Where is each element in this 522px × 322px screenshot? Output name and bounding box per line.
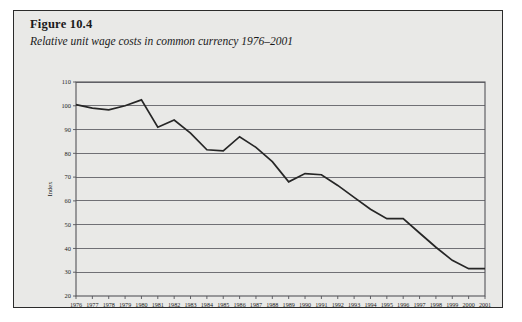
x-axis-ticks: 1976197719781979198019811982198319841985… [70,296,491,308]
plot-frame [76,82,485,296]
y-tick-label: 60 [65,197,71,204]
x-tick-label: 1999 [446,302,458,308]
x-tick-label: 1998 [430,302,442,308]
grid-lines [76,82,485,272]
x-tick-label: 1983 [184,302,196,308]
y-tick-label: 40 [65,245,71,252]
x-tick-label: 1989 [283,302,295,308]
x-tick-label: 1979 [119,302,131,308]
x-tick-label: 1988 [266,302,278,308]
y-tick-label: 50 [65,221,71,228]
y-axis-title: Index [46,181,53,197]
y-tick-label: 90 [65,126,71,133]
x-tick-label: 2001 [479,302,491,308]
y-axis-ticks: 2030405060708090100110 [61,78,76,299]
x-tick-label: 2000 [463,302,475,308]
x-tick-label: 1994 [364,302,376,308]
y-tick-label: 80 [65,150,71,157]
x-tick-label: 1993 [348,302,360,308]
x-tick-label: 1984 [201,302,213,308]
x-tick-label: 1992 [332,302,344,308]
figure-header: Figure 10.4 Relative unit wage costs in … [30,17,490,49]
x-tick-label: 1981 [152,302,164,308]
x-tick-label: 1980 [135,302,147,308]
x-tick-label: 1976 [70,302,82,308]
x-tick-label: 1978 [103,302,115,308]
y-tick-label: 30 [65,268,71,275]
y-tick-label: 20 [65,292,71,299]
x-tick-label: 1996 [397,302,409,308]
figure-card: Figure 10.4 Relative unit wage costs in … [13,10,503,308]
x-tick-label: 1987 [250,302,262,308]
x-tick-label: 1990 [299,302,311,308]
y-tick-label: 100 [61,102,71,109]
x-tick-label: 1986 [234,302,246,308]
x-tick-label: 1991 [315,302,327,308]
data-series-line [76,100,485,269]
x-tick-label: 1982 [168,302,180,308]
figure-subtitle: Relative unit wage costs in common curre… [30,34,490,49]
figure-number-label: Figure 10.4 [30,17,490,32]
x-tick-label: 1985 [217,302,229,308]
y-tick-label: 110 [62,78,71,85]
y-tick-label: 70 [65,173,71,180]
x-tick-label: 1997 [413,302,425,308]
x-tick-label: 1995 [381,302,393,308]
chart-plot-area: 2030405060708090100110 19761977197819791… [14,55,502,308]
x-tick-label: 1977 [86,302,98,308]
line-chart: 2030405060708090100110 19761977197819791… [14,55,502,308]
